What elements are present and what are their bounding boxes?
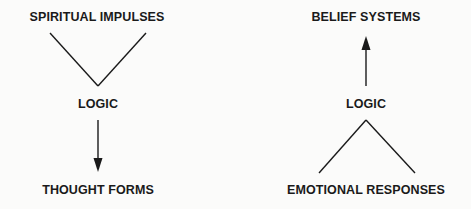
logic-diagram: SPIRITUAL IMPULSES LOGIC THOUGHT FORMS B… — [0, 0, 471, 209]
label-belief-systems: BELIEF SYSTEMS — [311, 10, 420, 24]
label-right-logic: LOGIC — [346, 97, 386, 111]
left-v-connector — [50, 33, 146, 86]
label-spiritual-impulses: SPIRITUAL IMPULSES — [30, 10, 165, 24]
right-up-arrow — [362, 36, 371, 86]
right-lambda-connector — [319, 120, 415, 173]
label-left-logic: LOGIC — [78, 97, 118, 111]
label-thought-forms: THOUGHT FORMS — [42, 183, 154, 197]
label-emotional-responses: EMOTIONAL RESPONSES — [287, 183, 445, 197]
connector-lines — [0, 0, 471, 209]
left-down-arrow — [94, 120, 103, 172]
